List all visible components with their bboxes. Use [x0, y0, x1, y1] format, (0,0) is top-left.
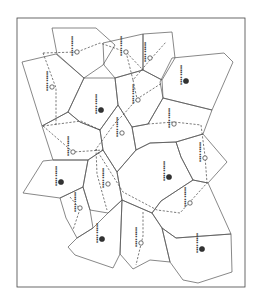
- map-marker: ▪▪▪▪ ▪▪▪▪▪: [94, 94, 104, 114]
- map-marker: ▪▪▪▪ ▪▪▪▪▪: [198, 142, 207, 162]
- map-marker: ▪▪▪▪ ▪▪▪▪▪: [115, 117, 124, 137]
- map-marker: ▪▪▪▪ ▪▪▪▪▪: [131, 84, 140, 104]
- filled-circle-icon: [98, 107, 103, 112]
- open-circle-icon: [139, 241, 143, 245]
- territory-cell: [100, 105, 136, 172]
- open-circle-icon: [203, 156, 207, 160]
- open-circle-icon: [188, 201, 192, 205]
- territory-cell: [117, 142, 193, 213]
- marker-label: ▪▪▪▪ ▪▪▪▪▪: [134, 227, 138, 247]
- territory-cell: [120, 200, 170, 269]
- map-canvas: ▪▪▪▪ ▪▪▪▪▪▪▪▪▪ ▪▪▪▪▪▪▪▪▪ ▪▪▪▪▪▪▪▪▪ ▪▪▪▪▪…: [0, 0, 260, 304]
- filled-circle-icon: [199, 246, 204, 251]
- marker-label: ▪▪▪▪ ▪▪▪▪▪: [95, 223, 99, 243]
- filled-circle-icon: [166, 174, 171, 179]
- open-circle-icon: [148, 56, 152, 60]
- map-marker: ▪▪▪▪ ▪▪▪▪▪: [134, 227, 143, 247]
- map-marker: ▪▪▪▪ ▪▪▪▪▪: [143, 42, 152, 62]
- marker-label: ▪▪▪▪ ▪▪▪▪▪: [167, 108, 171, 128]
- open-circle-icon: [172, 122, 176, 126]
- marker-label: ▪▪▪▪ ▪▪▪▪▪: [119, 36, 123, 56]
- dashed-connection-line: [96, 99, 137, 210]
- map-marker: ▪▪▪▪ ▪▪▪▪▪: [73, 192, 82, 212]
- marker-label: ▪▪▪▪ ▪▪▪▪▪: [143, 42, 147, 62]
- dashed-connection-line: [43, 43, 143, 70]
- territory-cell: [52, 28, 115, 78]
- marker-label: ▪▪▪▪ ▪▪▪▪▪: [183, 187, 187, 207]
- marker-label: ▪▪▪▪ ▪▪▪▪▪: [70, 36, 74, 56]
- marker-label: ▪▪▪▪ ▪▪▪▪▪: [162, 161, 166, 181]
- map-marker: ▪▪▪▪ ▪▪▪▪▪: [183, 187, 192, 207]
- map-marker: ▪▪▪▪ ▪▪▪▪▪: [167, 108, 176, 128]
- open-circle-icon: [71, 150, 75, 154]
- dashed-connection-line: [133, 80, 162, 99]
- marker-label: ▪▪▪▪ ▪▪▪▪▪: [94, 94, 98, 114]
- marker-label: ▪▪▪▪ ▪▪▪▪▪: [73, 192, 77, 212]
- map-frame: [17, 18, 245, 287]
- map-marker: ▪▪▪▪ ▪▪▪▪▪: [162, 161, 172, 181]
- marker-label: ▪▪▪▪ ▪▪▪▪▪: [54, 166, 58, 186]
- map-marker: ▪▪▪▪ ▪▪▪▪▪: [45, 71, 54, 91]
- map-marker: ▪▪▪▪ ▪▪▪▪▪: [66, 136, 75, 156]
- dashed-connection-line: [43, 126, 103, 152]
- open-circle-icon: [78, 206, 82, 210]
- voronoi-territory-map: ▪▪▪▪ ▪▪▪▪▪▪▪▪▪ ▪▪▪▪▪▪▪▪▪ ▪▪▪▪▪▪▪▪▪ ▪▪▪▪▪…: [0, 0, 260, 304]
- marker-label: ▪▪▪▪ ▪▪▪▪▪: [198, 142, 202, 162]
- marker-layer: ▪▪▪▪ ▪▪▪▪▪▪▪▪▪ ▪▪▪▪▪▪▪▪▪ ▪▪▪▪▪▪▪▪▪ ▪▪▪▪▪…: [45, 36, 207, 253]
- open-circle-icon: [50, 85, 54, 89]
- territory-cell: [68, 78, 118, 130]
- dashed-connection-line: [43, 121, 100, 130]
- territory-cell: [160, 53, 233, 110]
- marker-label: ▪▪▪▪ ▪▪▪▪▪: [66, 136, 70, 156]
- marker-label: ▪▪▪▪ ▪▪▪▪▪: [131, 84, 135, 104]
- map-marker: ▪▪▪▪ ▪▪▪▪▪: [101, 168, 110, 188]
- marker-label: ▪▪▪▪ ▪▪▪▪▪: [101, 168, 105, 188]
- open-circle-icon: [136, 98, 140, 102]
- territory-cell: [22, 54, 84, 126]
- map-marker: ▪▪▪▪ ▪▪▪▪▪: [54, 166, 64, 186]
- map-marker: ▪▪▪▪ ▪▪▪▪▪: [70, 36, 79, 56]
- map-marker: ▪▪▪▪ ▪▪▪▪▪: [119, 36, 128, 56]
- map-marker: ▪▪▪▪ ▪▪▪▪▪: [95, 223, 105, 243]
- marker-label: ▪▪▪▪ ▪▪▪▪▪: [115, 117, 119, 137]
- marker-label: ▪▪▪▪ ▪▪▪▪▪: [179, 65, 183, 85]
- map-marker: ▪▪▪▪ ▪▪▪▪▪: [179, 65, 189, 85]
- filled-circle-icon: [183, 78, 188, 83]
- marker-label: ▪▪▪▪ ▪▪▪▪▪: [45, 71, 49, 91]
- open-circle-icon: [120, 131, 124, 135]
- marker-label: ▪▪▪▪ ▪▪▪▪▪: [195, 233, 199, 253]
- open-circle-icon: [75, 50, 79, 54]
- filled-circle-icon: [58, 179, 63, 184]
- filled-circle-icon: [99, 236, 104, 241]
- open-circle-icon: [124, 50, 128, 54]
- open-circle-icon: [106, 182, 110, 186]
